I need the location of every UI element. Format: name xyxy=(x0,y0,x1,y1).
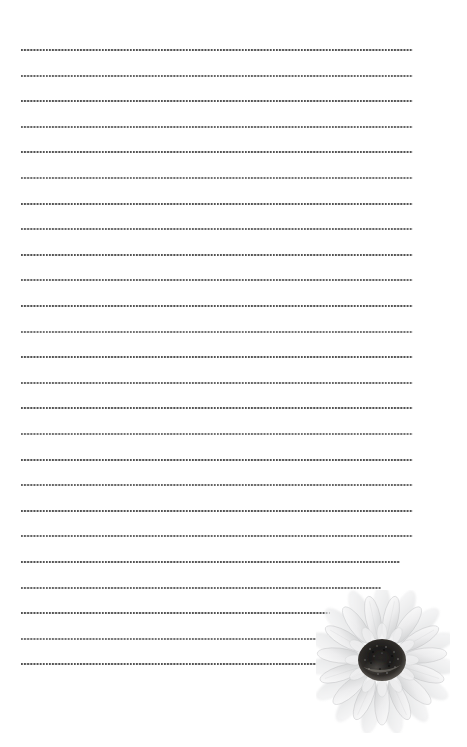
writing-line-20 xyxy=(21,535,413,539)
writing-lines xyxy=(0,0,467,747)
writing-line-17 xyxy=(21,459,413,463)
writing-line-9 xyxy=(21,254,413,258)
writing-line-12 xyxy=(21,331,413,335)
writing-line-2 xyxy=(21,75,413,79)
writing-line-21 xyxy=(21,561,400,565)
writing-line-25 xyxy=(21,663,316,667)
writing-line-24 xyxy=(21,638,316,642)
writing-line-23 xyxy=(21,612,330,616)
writing-line-19 xyxy=(21,510,413,514)
writing-line-13 xyxy=(21,356,413,360)
writing-line-8 xyxy=(21,228,413,232)
writing-line-16 xyxy=(21,433,413,437)
writing-line-7 xyxy=(21,203,413,207)
writing-line-18 xyxy=(21,484,413,488)
writing-line-4 xyxy=(21,126,413,130)
writing-line-3 xyxy=(21,100,413,104)
note-paper-page xyxy=(0,0,467,747)
writing-line-6 xyxy=(21,177,413,181)
writing-line-14 xyxy=(21,382,413,386)
writing-line-22 xyxy=(21,587,381,591)
writing-line-10 xyxy=(21,279,413,283)
writing-line-1 xyxy=(21,49,413,53)
writing-line-15 xyxy=(21,407,413,411)
writing-line-11 xyxy=(21,305,413,309)
writing-line-5 xyxy=(21,151,413,155)
